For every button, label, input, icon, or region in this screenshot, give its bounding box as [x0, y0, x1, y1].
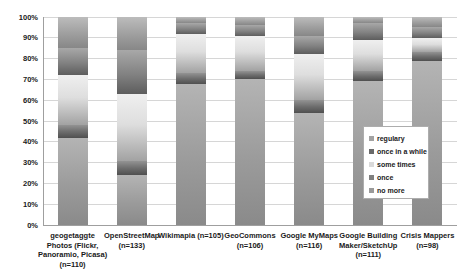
legend-label: some times — [377, 161, 416, 168]
y-tick-label: 70% — [0, 75, 38, 84]
bar-segment-once-in-a-while-cat2 — [117, 161, 147, 176]
y-axis-line — [43, 17, 44, 225]
bar-segment-once-in-a-while-cat3 — [176, 73, 206, 83]
bar-segment-regulary-cat1 — [58, 138, 88, 225]
y-tick-label: 100% — [0, 13, 38, 22]
bar-segment-once-cat1 — [58, 48, 88, 75]
legend: regularyonce in a whilesome timesonceno … — [363, 126, 429, 199]
bar-segment-once-in-a-while-cat4 — [235, 71, 265, 79]
bar-segment-no-more-cat5 — [294, 17, 324, 36]
bar-segment-regulary-cat4 — [235, 79, 265, 225]
legend-item: some times — [369, 158, 428, 171]
bar-segment-regulary-cat3 — [176, 84, 206, 225]
legend-item: once in a while — [369, 145, 428, 158]
legend-swatch-icon — [369, 162, 374, 167]
y-tick-label: 90% — [0, 33, 38, 42]
legend-item: regulary — [369, 132, 428, 145]
bar-segment-once-cat3 — [176, 23, 206, 33]
y-tick-label: 10% — [0, 200, 38, 209]
y-tick-label: 40% — [0, 137, 38, 146]
bar-segment-no-more-cat6 — [353, 17, 383, 23]
legend-swatch-icon — [369, 136, 374, 141]
stacked-bar-chart-figure: regularyonce in a whilesome timesonceno … — [0, 0, 468, 276]
bar-segment-once-cat5 — [294, 36, 324, 55]
bar-segment-some-times-cat1 — [58, 75, 88, 125]
bar-segment-regulary-cat2 — [117, 175, 147, 225]
bar-segment-no-more-cat2 — [117, 17, 147, 50]
y-tick-label: 80% — [0, 54, 38, 63]
legend-item: once — [369, 171, 428, 184]
bar-segment-regulary-cat5 — [294, 113, 324, 225]
bar-segment-some-times-cat4 — [235, 36, 265, 71]
legend-label: regulary — [377, 135, 405, 142]
legend-label: no more — [377, 187, 405, 194]
bar-segment-once-in-a-while-cat1 — [58, 125, 88, 137]
y-tick-label: 30% — [0, 158, 38, 167]
bar-segment-no-more-cat4 — [235, 17, 265, 25]
bar-segment-no-more-cat7 — [412, 17, 442, 27]
bar-segment-some-times-cat5 — [294, 54, 324, 100]
bar-segment-once-in-a-while-cat6 — [353, 71, 383, 81]
bar-segment-some-times-cat7 — [412, 38, 442, 53]
x-axis-label-line: (n=98) — [385, 241, 468, 251]
legend-label: once in a while — [377, 148, 427, 155]
legend-item: no more — [369, 184, 428, 197]
x-axis-label-line: (n=110) — [31, 260, 115, 270]
bar-segment-once-cat7 — [412, 27, 442, 37]
bar-segment-no-more-cat3 — [176, 17, 206, 23]
bar-segment-once-cat6 — [353, 23, 383, 40]
bar-segment-some-times-cat2 — [117, 94, 147, 161]
bar-segment-once-cat4 — [235, 25, 265, 35]
y-tick-label: 20% — [0, 179, 38, 188]
x-axis-label-line: (n=111) — [326, 250, 410, 260]
bar-segment-some-times-cat3 — [176, 34, 206, 74]
bar-segment-once-cat2 — [117, 50, 147, 94]
bar-segment-once-in-a-while-cat5 — [294, 100, 324, 112]
bar-segment-no-more-cat1 — [58, 17, 88, 48]
x-axis-label-line: (n=133) — [90, 241, 174, 251]
legend-swatch-icon — [369, 175, 374, 180]
y-tick-label: 0% — [0, 221, 38, 230]
y-tick-label: 50% — [0, 117, 38, 126]
y-tick-label: 60% — [0, 96, 38, 105]
bar-segment-once-in-a-while-cat7 — [412, 52, 442, 60]
x-axis-label-line: Panoramio, Picasa) — [31, 250, 115, 260]
bar-segment-some-times-cat6 — [353, 40, 383, 71]
x-axis-category-label: Crisis Mappers(n=98) — [385, 231, 468, 250]
legend-swatch-icon — [369, 188, 374, 193]
legend-label: once — [377, 174, 393, 181]
legend-swatch-icon — [369, 149, 374, 154]
x-axis-label-line: Crisis Mappers — [385, 231, 468, 241]
